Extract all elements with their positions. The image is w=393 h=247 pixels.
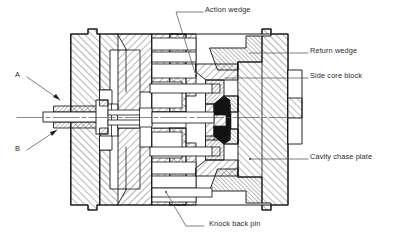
label-side-core-block: Side core block [310,71,362,80]
cross-section-drawing [0,0,393,247]
label-callout-b: B [15,144,20,153]
label-cavity-chase-plate: Cavity chase plate [310,152,372,161]
label-callout-a: A [15,70,20,79]
label-knock-back-pin: Knock back pin [209,219,261,228]
label-action-wedge: Action wedge [205,5,251,14]
figure-canvas: Action wedge Return wedge Side core bloc… [0,0,393,247]
label-return-wedge: Return wedge [310,46,357,55]
